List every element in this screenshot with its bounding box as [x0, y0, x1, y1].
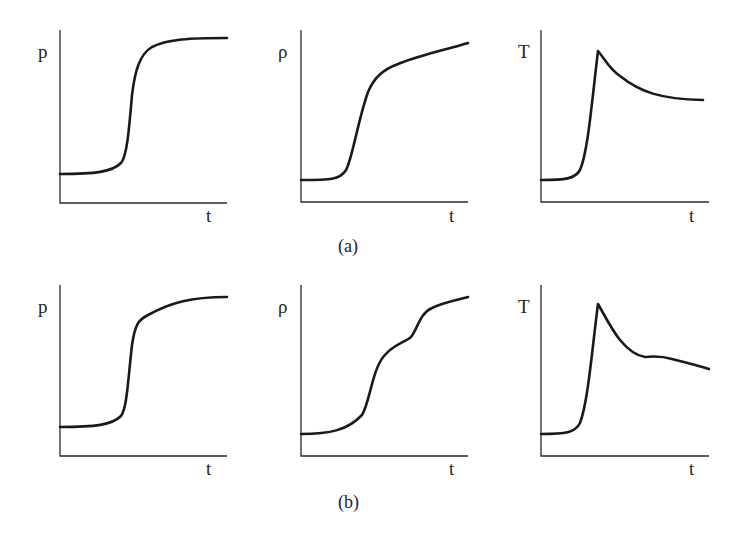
panel-a-density: ρt — [278, 30, 468, 226]
x-axis-label: t — [206, 205, 212, 226]
panel-b-pressure: pt — [38, 285, 227, 479]
axes — [60, 285, 227, 456]
axes — [301, 30, 468, 202]
profile-curve — [301, 43, 468, 180]
panel-a-temperature: Tt — [518, 30, 709, 226]
profile-curve — [301, 297, 468, 434]
x-axis-label: t — [449, 458, 455, 479]
x-axis-label: t — [689, 205, 695, 226]
y-axis-label: T — [518, 41, 530, 62]
figure-root: ptρtTtptρtTt(a)(b) — [0, 0, 742, 534]
y-axis-label: p — [38, 296, 48, 317]
y-axis-label: ρ — [278, 296, 287, 317]
axes — [301, 285, 468, 456]
shock-profile-figure: ptρtTtptρtTt(a)(b) — [0, 0, 742, 534]
subfigure-caption-b: (b) — [338, 492, 359, 513]
y-axis-label: p — [38, 41, 48, 62]
profile-curve — [541, 304, 709, 434]
axes — [541, 285, 709, 456]
profile-curve — [60, 38, 227, 174]
axes — [541, 30, 709, 202]
y-axis-label: T — [518, 296, 530, 317]
x-axis-label: t — [206, 458, 212, 479]
subfigure-caption-a: (a) — [338, 236, 358, 257]
profile-curve — [60, 297, 227, 427]
x-axis-label: t — [689, 458, 695, 479]
y-axis-label: ρ — [278, 41, 287, 62]
panel-a-pressure: pt — [38, 30, 227, 226]
x-axis-label: t — [449, 205, 455, 226]
panel-b-temperature: Tt — [518, 285, 709, 479]
profile-curve — [541, 51, 703, 180]
panel-b-density: ρt — [278, 285, 468, 479]
